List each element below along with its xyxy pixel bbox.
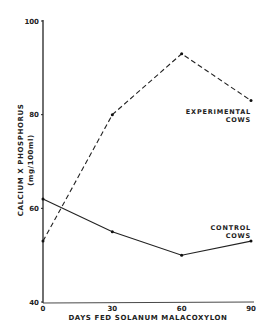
x-tick-label: 0: [41, 305, 46, 313]
y-tick-label: 60: [29, 205, 39, 213]
y-tick-label: 80: [29, 111, 39, 119]
series-label: COWS: [226, 232, 251, 240]
x-tick-label: 90: [246, 305, 256, 313]
y-axis-title: CALCIUM X PHOSPHORUS: [17, 104, 25, 217]
y-axis-title-group: CALCIUM X PHOSPHORUS (mg/100ml): [17, 104, 35, 217]
x-axis: [43, 302, 254, 303]
data-point: [250, 99, 253, 102]
series-label: CONTROL: [211, 224, 251, 232]
line-chart: 406080100 0306090 EXPERIMENTALCOWSCONTRO…: [0, 0, 268, 334]
y-axis-units: (mg/100ml): [27, 134, 35, 186]
data-point: [111, 230, 114, 233]
series-labels: EXPERIMENTALCOWSCONTROLCOWS: [186, 108, 251, 241]
data-point: [111, 113, 114, 116]
y-tick-label: 40: [29, 299, 39, 307]
data-point: [42, 240, 45, 243]
x-tick-label: 60: [177, 305, 187, 313]
series-label: EXPERIMENTAL: [186, 108, 251, 116]
data-point: [42, 197, 45, 200]
data-point: [180, 254, 183, 257]
x-tick-label: 30: [107, 305, 117, 313]
data-point: [180, 52, 183, 55]
x-axis-title: DAYS FED SOLANUM MALACOXYLON: [68, 314, 227, 322]
series-label: COWS: [226, 116, 251, 124]
x-tick-labels: 0306090: [41, 305, 256, 313]
experimental-cows-line: [43, 54, 251, 241]
axes: [43, 20, 254, 303]
y-tick-label: 100: [24, 18, 39, 26]
